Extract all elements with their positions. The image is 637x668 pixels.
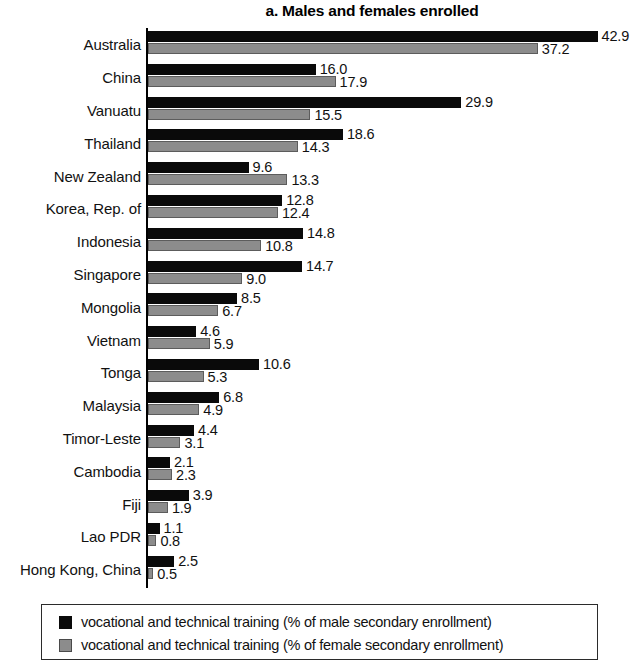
bar-female [148,404,199,415]
bar-value-male: 8.5 [241,291,261,306]
bar-value-male: 14.8 [307,226,334,241]
bar-value-female: 1.9 [172,501,192,516]
bar-female [148,141,298,152]
bar-value-female: 12.4 [282,206,309,221]
bar-female [148,109,310,120]
legend-item-female: vocational and technical training (% of … [59,634,503,656]
bar-value-male: 3.9 [193,488,213,503]
bar-value-female: 3.1 [184,436,204,451]
bar-male [148,261,302,272]
bar-value-male: 42.9 [602,29,629,44]
bar-value-female: 4.9 [203,403,223,418]
bar-value-female: 2.3 [176,468,196,483]
bar-value-female: 5.3 [208,370,228,385]
category-label: Hong Kong, China [20,562,141,577]
category-label: China [102,70,141,85]
bar-male [148,64,316,75]
bar-row: Cambodia2.12.3 [0,454,637,487]
bar-row: Thailand18.614.3 [0,126,637,159]
bar-value-female: 15.5 [314,108,341,123]
bar-female [148,207,278,218]
category-label: Korea, Rep. of [46,201,141,216]
category-label: Indonesia [77,234,141,249]
bar-row: Korea, Rep. of12.812.4 [0,192,637,225]
bar-row: Vietnam4.65.9 [0,323,637,356]
category-label: Malaysia [83,398,141,413]
bar-row: China16.017.9 [0,61,637,94]
bar-row: Fiji3.91.9 [0,487,637,520]
bar-row: Indonesia14.810.8 [0,225,637,258]
bar-value-female: 0.8 [160,534,180,549]
bar-row: Hong Kong, China2.50.5 [0,553,637,586]
bar-female [148,240,261,251]
category-label: Australia [84,37,141,52]
bar-male [148,195,282,206]
bar-male [148,425,194,436]
bar-male [148,97,461,108]
category-label: Lao PDR [81,529,141,544]
bar-row: New Zealand9.613.3 [0,159,637,192]
male-swatch-icon [59,616,72,629]
bar-value-male: 29.9 [465,95,492,110]
bar-value-male: 14.7 [306,259,333,274]
category-label: Timor-Leste [63,430,141,445]
bar-female [148,76,336,87]
legend-item-male: vocational and technical training (% of … [59,611,492,633]
category-label: Thailand [84,135,141,150]
bar-value-female: 13.3 [291,173,318,188]
bar-male [148,326,196,337]
bar-female [148,371,204,382]
bar-value-male: 6.8 [223,390,243,405]
bar-row: Lao PDR1.10.8 [0,520,637,553]
bar-female [148,273,242,284]
bar-value-female: 37.2 [542,42,569,57]
bar-value-male: 2.5 [178,554,198,569]
bar-female [148,43,538,54]
bar-value-male: 18.6 [347,127,374,142]
category-label: Tonga [101,365,141,380]
bar-male [148,162,249,173]
bar-female [148,469,172,480]
bar-female [148,437,180,448]
bar-row: Vanuatu29.915.5 [0,94,637,127]
bar-male [148,359,259,370]
bar-row: Malaysia6.84.9 [0,389,637,422]
bar-value-female: 9.0 [246,272,266,287]
bar-male [148,457,170,468]
category-label: Mongolia [81,299,141,314]
bar-value-female: 10.8 [265,239,292,254]
category-label: Vanuatu [87,102,141,117]
category-label: Fiji [122,496,141,511]
bar-row: Tonga10.65.3 [0,356,637,389]
bar-value-female: 5.9 [214,337,234,352]
bar-female [148,568,153,579]
chart-plot-area: Australia42.937.2China16.017.9Vanuatu29.… [0,28,637,590]
legend-label-male: vocational and technical training (% of … [81,615,492,630]
bar-value-male: 9.6 [253,160,273,175]
chart-legend: vocational and technical training (% of … [41,604,598,660]
chart-title: a. Males and females enrolled [147,2,597,20]
bar-female [148,305,218,316]
bar-female [148,338,210,349]
bar-male [148,523,160,534]
bar-value-female: 17.9 [340,75,367,90]
legend-label-female: vocational and technical training (% of … [81,638,503,653]
bar-value-female: 6.7 [222,304,242,319]
bar-value-male: 10.6 [263,357,290,372]
bar-row: Mongolia8.56.7 [0,290,637,323]
bar-row: Timor-Leste4.43.1 [0,422,637,455]
bar-female [148,174,287,185]
bar-row: Singapore14.79.0 [0,258,637,291]
female-swatch-icon [59,639,72,652]
bar-male [148,31,598,42]
bar-value-female: 14.3 [302,140,329,155]
category-label: Singapore [74,266,142,281]
bar-row: Australia42.937.2 [0,28,637,61]
bar-female [148,535,156,546]
category-label: Cambodia [73,463,141,478]
bar-value-female: 0.5 [157,567,177,582]
bar-female [148,502,168,513]
category-label: Vietnam [87,332,141,347]
category-label: New Zealand [54,168,141,183]
